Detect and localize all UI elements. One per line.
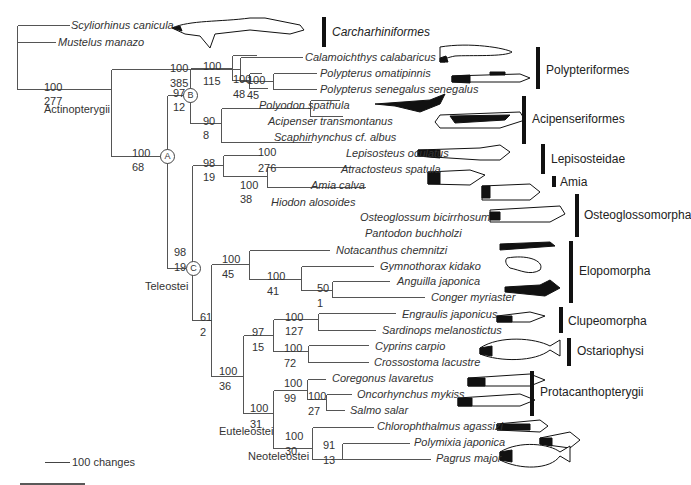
support-value-top: 100 [44, 81, 62, 93]
taxon-label: Calamoichthys calabaricus [305, 51, 436, 63]
clade-label: Lepisosteidae [551, 153, 625, 165]
clade-label: Osteoglossomorpha [584, 209, 691, 221]
node-label-c: C [186, 261, 201, 276]
support-value-bottom: 68 [132, 161, 144, 173]
support-value-top: 100 [219, 365, 237, 377]
taxon-label: Atractosteus spatula [341, 163, 441, 175]
support-value-bottom: 13 [323, 454, 335, 466]
support-value-top: 100 [267, 270, 285, 282]
taxon-label: Amia calva [311, 179, 365, 191]
support-value-bottom: 19 [203, 171, 215, 183]
support-value-bottom: 45 [247, 89, 259, 101]
support-value-bottom: 1 [317, 297, 323, 309]
taxon-label: Polypterus omatipinnis [320, 67, 431, 79]
taxon-label: Conger myriaster [431, 291, 515, 303]
support-value-bottom: 276 [258, 162, 276, 174]
taxon-label: Anguilla japonica [397, 275, 480, 287]
taxon-label: Pantodon buchholzi [365, 227, 462, 239]
clade-label: Elopomorpha [579, 265, 650, 277]
support-value-bottom: 45 [222, 268, 234, 280]
group-label: Actinopterygii [44, 103, 110, 115]
scale-bar-label: 100 changes [72, 456, 135, 468]
support-value-bottom: 115 [203, 75, 221, 87]
taxon-label: Polyodon spathula [259, 99, 350, 111]
support-value-top: 91 [323, 439, 335, 451]
support-value-top: 98 [203, 157, 215, 169]
support-value-top: 100 [258, 146, 276, 158]
taxon-label: Osteoglossum bicirrhosum [360, 211, 490, 223]
support-value-top: 100 [170, 62, 188, 74]
support-value-top: 100 [250, 402, 268, 414]
support-value-bottom: 48 [233, 88, 245, 100]
group-label: Teleostei [145, 280, 188, 292]
support-value-top: 97 [252, 326, 264, 338]
support-value-top: 90 [203, 115, 215, 127]
support-value-top: 100 [222, 253, 240, 265]
clade-label: Polypteriformes [546, 64, 629, 76]
support-value-bottom: 27 [308, 405, 320, 417]
taxon-label: Polypterus senegalus senegalus [320, 83, 478, 95]
support-value-top: 61 [200, 311, 212, 323]
support-value-top: 98 [174, 246, 186, 258]
support-value-bottom: 12 [173, 101, 185, 113]
clade-bar [567, 338, 571, 366]
support-value-top: 100 [284, 377, 302, 389]
clade-bar [541, 144, 545, 174]
taxon-label: Sardinops melanostictus [382, 324, 502, 336]
taxon-label: Engraulis japonicus [402, 308, 497, 320]
taxon-label: Pagrus major [436, 452, 501, 464]
clade-bar [575, 194, 579, 237]
clade-label: Amia [560, 176, 587, 188]
support-value-top: 100 [308, 390, 326, 402]
support-value-bottom: 99 [284, 392, 296, 404]
taxon-label: Crossostoma lacustre [374, 356, 480, 368]
support-value-top: 100 [284, 342, 302, 354]
support-value-top: 100 [285, 430, 303, 442]
clade-label: Ostariophysi [577, 345, 644, 357]
support-value-top: 100 [240, 179, 258, 191]
support-value-bottom: 38 [240, 193, 252, 205]
clade-bar [530, 371, 534, 416]
taxon-label: Scaphirhynchus cf. albus [274, 131, 396, 143]
taxon-label: Mustelus manazo [58, 36, 144, 48]
support-value-top: 100 [203, 60, 221, 72]
taxon-label: Scyliorhinus canicula [71, 19, 174, 31]
support-value-top: 100 [285, 311, 303, 323]
node-label-a: A [160, 149, 175, 164]
taxon-label: Polymixia japonica [414, 436, 505, 448]
node-label-b: B [183, 88, 198, 103]
group-label: Euteleostei [219, 425, 273, 437]
support-value-bottom: 2 [200, 326, 206, 338]
support-value-bottom: 72 [284, 357, 296, 369]
taxon-label: Cyprins carpio [375, 340, 445, 352]
taxon-label: Chlorophthalmus agassizi [377, 420, 503, 432]
taxon-label: Hiodon alosoides [271, 196, 355, 208]
taxon-label: Gymnothorax kidako [380, 260, 481, 272]
taxon-label: Salmo salar [350, 404, 408, 416]
support-value-top: 50 [317, 282, 329, 294]
clade-label: Carcharhiniformes [332, 26, 430, 38]
clade-label: Acipenseriformes [532, 113, 625, 125]
taxon-label: Coregonus lavaretus [332, 372, 434, 384]
clade-label: Protacanthopterygii [540, 386, 643, 398]
clade-bar [522, 96, 526, 144]
support-value-bottom: 8 [203, 129, 209, 141]
support-value-bottom: 15 [252, 341, 264, 353]
clade-bar [536, 47, 540, 89]
support-value-top: 100 [233, 73, 251, 85]
taxon-label: Oncorhynchus mykiss [357, 388, 465, 400]
taxon-label: Lepisosteus oculatus [346, 147, 449, 159]
support-value-bottom: 127 [285, 325, 303, 337]
clade-bar [322, 17, 326, 47]
taxon-label: Acipenser transmontanus [268, 115, 393, 127]
support-value-top: 100 [132, 147, 150, 159]
clade-label: Clupeomorpha [568, 315, 647, 327]
support-value-bottom: 36 [219, 380, 231, 392]
clade-bar [552, 176, 556, 187]
clade-bar [569, 241, 573, 303]
support-value-bottom: 41 [267, 285, 279, 297]
taxon-label: Notacanthus chemnitzi [336, 244, 447, 256]
clade-bar [559, 307, 563, 333]
group-label: Neoteleostei [248, 450, 309, 462]
support-value-bottom: 19 [174, 261, 186, 273]
